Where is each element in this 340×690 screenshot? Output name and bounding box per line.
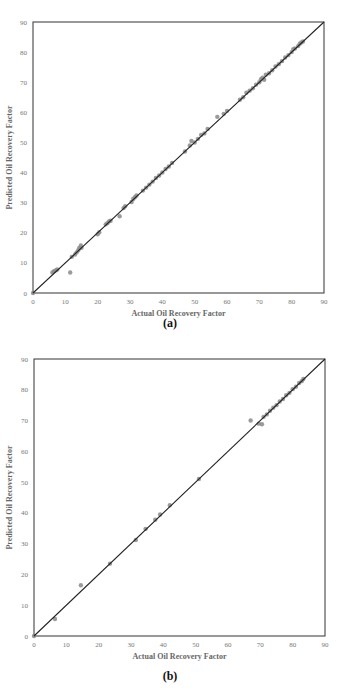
data-point [68,270,72,274]
data-point [117,214,121,218]
x-tick-label: 60 [225,641,233,649]
identity-line [34,359,325,636]
y-tick-label: 70 [21,417,29,425]
y-tick-label: 20 [20,229,28,237]
y-tick-label: 80 [20,49,28,57]
y-tick-label: 10 [21,602,29,610]
y-axis-label: Predicted Oil Recovery Factor [5,445,14,549]
x-tick-label: 80 [289,641,297,649]
panel-label-b: (b) [150,669,190,684]
y-tick-label: 60 [20,109,28,117]
data-point [79,583,83,587]
chart-panel-a: 01020304050607080900102030405060708090Ac… [0,0,340,340]
x-tick-label: 20 [95,641,103,649]
x-tick-label: 60 [224,298,232,306]
x-tick-label: 50 [191,298,199,306]
y-tick-label: 0 [24,290,28,298]
y-tick-label: 20 [21,571,29,579]
y-tick-label: 60 [21,448,29,456]
x-tick-label: 90 [321,298,329,306]
y-tick-label: 90 [20,19,28,27]
scatter-plot-a: 01020304050607080900102030405060708090Ac… [0,0,340,340]
x-tick-label: 30 [128,641,136,649]
y-tick-label: 40 [21,509,29,517]
scatter-plot-b: 01020304050607080900102030405060708090Ac… [0,345,340,690]
x-tick-label: 70 [257,641,265,649]
x-tick-label: 30 [127,298,135,306]
y-tick-label: 40 [20,169,28,177]
y-tick-label: 50 [20,139,28,147]
x-tick-label: 0 [31,298,35,306]
x-tick-label: 50 [192,641,200,649]
y-axis-label: Predicted Oil Recovery Factor [5,105,14,209]
x-tick-label: 70 [256,298,264,306]
y-tick-label: 30 [20,199,28,207]
y-tick-label: 50 [21,479,29,487]
y-tick-label: 90 [21,356,29,364]
x-tick-label: 90 [322,641,330,649]
x-tick-label: 40 [160,641,168,649]
x-tick-label: 40 [159,298,167,306]
y-tick-label: 70 [20,79,28,87]
x-tick-label: 80 [288,298,296,306]
chart-panel-b: 01020304050607080900102030405060708090Ac… [0,345,340,690]
y-tick-label: 80 [21,386,29,394]
x-tick-label: 10 [62,298,70,306]
x-tick-label: 0 [32,641,36,649]
x-tick-label: 10 [63,641,71,649]
identity-line [33,22,324,293]
data-point [260,422,264,426]
x-tick-label: 20 [94,298,102,306]
data-point [215,115,219,119]
y-tick-label: 0 [25,633,29,641]
x-axis-label: Actual Oil Recovery Factor [133,652,227,661]
data-point [248,418,252,422]
panel-label-a: (a) [150,316,190,331]
y-tick-label: 10 [20,259,28,267]
y-tick-label: 30 [21,540,29,548]
